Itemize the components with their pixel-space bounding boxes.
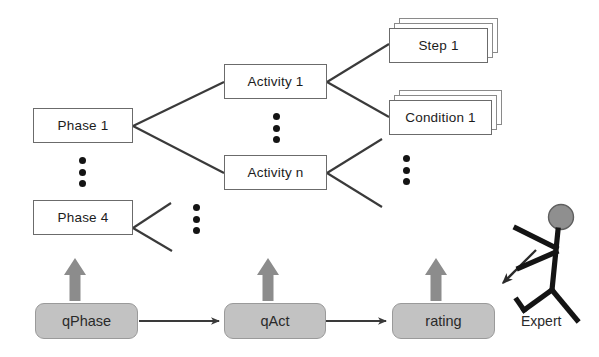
node-phase-1-label: Phase 1 (58, 118, 109, 133)
node-step-1[interactable]: Step 1 (389, 28, 488, 63)
ellipsis-leaves (402, 155, 410, 185)
dot (193, 216, 200, 223)
edge-activity1-to-leaves (327, 44, 389, 117)
node-step-1-label: Step 1 (418, 38, 458, 53)
up-arrow-qphase (64, 258, 86, 301)
node-condition-1-label: Condition 1 (405, 110, 476, 125)
node-phase-4-label: Phase 4 (58, 210, 109, 225)
edge-phase4-to-children (133, 203, 172, 251)
diagram-canvas: Phase 1 Phase 4 Activity 1 Activity n St… (0, 0, 599, 357)
edge-activityn-to-leaves (327, 139, 382, 207)
node-phase-4[interactable]: Phase 4 (33, 200, 133, 235)
node-activity-1-label: Activity 1 (247, 74, 303, 89)
node-condition-1[interactable]: Condition 1 (389, 100, 492, 135)
dot (79, 180, 86, 187)
dot (79, 157, 86, 164)
node-qact[interactable]: qAct (224, 303, 326, 339)
dot (403, 155, 410, 162)
node-qphase-label: qPhase (62, 313, 111, 329)
dot (403, 167, 410, 174)
up-arrow-rating (425, 258, 447, 301)
node-activity-n[interactable]: Activity n (224, 155, 327, 190)
dot (403, 178, 410, 185)
node-qact-label: qAct (260, 313, 289, 329)
node-phase-1[interactable]: Phase 1 (33, 108, 133, 143)
dot (193, 204, 200, 211)
dot (273, 136, 280, 143)
ellipsis-phase4-children (192, 204, 200, 234)
edge-phase1-to-activities (133, 82, 224, 173)
dot (79, 169, 86, 176)
node-activity-n-label: Activity n (247, 165, 303, 180)
dot (273, 113, 280, 120)
dot (273, 125, 280, 132)
ellipsis-activities (272, 113, 280, 143)
node-activity-1[interactable]: Activity 1 (224, 64, 327, 99)
expert-label: Expert (521, 313, 561, 329)
node-rating-label: rating (425, 313, 461, 329)
node-qphase[interactable]: qPhase (35, 303, 138, 339)
dot (193, 227, 200, 234)
node-rating[interactable]: rating (392, 303, 495, 339)
up-arrow-qact (257, 258, 279, 301)
ellipsis-phases (78, 157, 86, 187)
